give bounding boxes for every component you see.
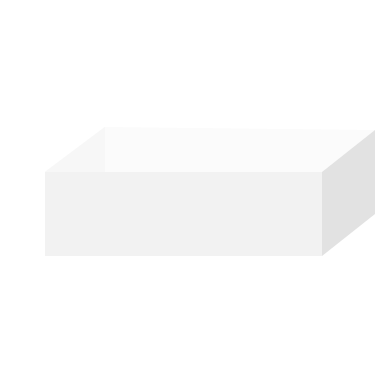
refraction-diagram-svg xyxy=(0,0,383,387)
slab-front-face xyxy=(45,172,322,256)
diagram-canvas: Refraction of rays through a transparent… xyxy=(0,0,383,387)
slab-faces xyxy=(45,127,375,256)
